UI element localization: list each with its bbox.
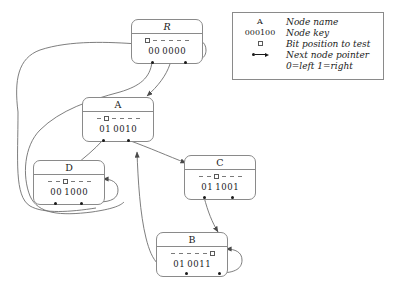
node-D-left-pointer-dot[interactable] — [54, 202, 57, 205]
bit-dash — [237, 174, 243, 180]
key-digit: 1 — [233, 182, 239, 192]
node-B-bitmarks — [161, 249, 223, 258]
node-C-name: C — [185, 156, 255, 170]
key-digit: 0 — [131, 124, 137, 134]
bit-dash — [170, 251, 176, 257]
bit-dash — [176, 38, 182, 44]
legend-text-pointer: Next node pointer — [283, 50, 369, 60]
node-A-right-pointer-dot[interactable] — [127, 139, 130, 142]
key-digit: 0 — [154, 46, 160, 56]
node-B[interactable]: B 0 1 0 0 1 1 — [156, 232, 228, 277]
key-digit: 1 — [207, 182, 213, 192]
node-A-body: 0 1 0 0 1 0 — [83, 112, 153, 137]
bit-dash — [184, 38, 190, 44]
node-D[interactable]: D 0 0 1 0 0 0 — [33, 160, 105, 205]
node-D-name: D — [34, 161, 104, 175]
bit-dash — [127, 116, 133, 122]
legend-symbol-bit-position — [237, 41, 283, 46]
node-B-body: 0 1 0 0 1 1 — [157, 247, 227, 272]
node-C-left-pointer-dot[interactable] — [203, 196, 206, 199]
bit-dash — [160, 38, 166, 44]
node-C-bitmarks — [189, 172, 251, 181]
bit-position-marker — [210, 251, 215, 256]
bit-dash — [86, 179, 92, 185]
key-digit: 1 — [179, 259, 185, 269]
node-C-key: 0 1 1 0 0 1 — [189, 181, 251, 192]
legend-row-node-key: 000100 Node key — [237, 27, 378, 38]
node-R-left-pointer-dot[interactable] — [151, 61, 154, 64]
figure-canvas: R 0 0 0 0 0 0 A — [0, 0, 394, 296]
legend-text-node-name: Node name — [283, 17, 338, 27]
bit-position-marker — [214, 174, 219, 179]
bit-dash — [194, 251, 200, 257]
node-B-left-pointer-dot[interactable] — [185, 272, 188, 275]
legend-text-node-key: Node key — [283, 28, 329, 38]
node-R-key: 0 0 0 0 0 0 — [136, 45, 198, 56]
bit-position-marker — [63, 179, 68, 184]
pointer-line-icon — [255, 54, 265, 55]
node-B-right-pointer-dot[interactable] — [218, 272, 221, 275]
bit-dash — [111, 116, 117, 122]
key-digit: 0 — [82, 187, 88, 197]
node-R[interactable]: R 0 0 0 0 0 0 — [131, 19, 203, 64]
bit-dash — [96, 116, 102, 122]
node-A-left-pointer-dot[interactable] — [102, 139, 105, 142]
legend-row-pointer: Next node pointer — [237, 49, 378, 60]
node-A-name: A — [83, 98, 153, 112]
node-A[interactable]: A 0 1 0 0 1 0 — [82, 97, 154, 142]
bit-dash — [206, 174, 212, 180]
node-B-key: 0 1 0 0 1 1 — [161, 258, 223, 269]
bit-dash — [119, 116, 125, 122]
node-B-name: B — [157, 233, 227, 247]
bit-dash — [152, 38, 158, 44]
key-digit: 1 — [205, 259, 211, 269]
edge-A-1-to-C — [128, 140, 186, 163]
node-R-bitmarks — [136, 36, 198, 45]
pointer-arrowhead-icon — [265, 53, 269, 57]
legend-row-branch-convention: 0=left 1=right — [237, 60, 378, 71]
key-digit: 1 — [105, 124, 111, 134]
node-C-right-pointer-dot[interactable] — [231, 196, 234, 199]
node-A-key: 0 1 0 0 1 0 — [87, 123, 149, 134]
legend-symbol-node-key: 000100 — [237, 28, 283, 37]
node-R-body: 0 0 0 0 0 0 — [132, 34, 202, 59]
bit-dash — [78, 179, 84, 185]
bit-dash — [168, 38, 174, 44]
bit-position-marker — [145, 38, 150, 43]
bit-dash — [135, 116, 141, 122]
bit-dash — [186, 251, 192, 257]
legend-text-branch-convention: 0=left 1=right — [283, 61, 353, 71]
legend-row-bit-position: Bit position to test — [237, 38, 378, 49]
edge-C-0-to-B — [204, 197, 218, 232]
node-D-right-pointer-dot[interactable] — [80, 202, 83, 205]
bit-dash — [55, 179, 61, 185]
bit-dash — [47, 179, 53, 185]
legend-text-bit-position: Bit position to test — [283, 39, 370, 49]
node-D-body: 0 0 1 0 0 0 — [34, 175, 104, 200]
node-R-right-pointer-dot[interactable] — [184, 61, 187, 64]
legend-row-node-name: A Node name — [237, 16, 378, 27]
next-node-pointer-icon — [252, 53, 269, 57]
bit-dash — [221, 174, 227, 180]
legend-box: A Node name 000100 Node key Bit position… — [232, 12, 384, 80]
bit-dash — [229, 174, 235, 180]
bit-dash — [178, 251, 184, 257]
node-R-name: R — [132, 20, 202, 34]
key-digit: 0 — [180, 46, 186, 56]
legend-symbol-node-name: A — [237, 17, 283, 26]
node-D-key: 0 0 1 0 0 0 — [38, 186, 100, 197]
legend-symbol-pointer — [237, 53, 283, 57]
node-C[interactable]: C 0 1 1 0 0 1 — [184, 155, 256, 200]
key-digit: 0 — [56, 187, 62, 197]
bit-dash — [198, 174, 204, 180]
node-C-body: 0 1 1 0 0 1 — [185, 170, 255, 195]
node-A-bitmarks — [87, 114, 149, 123]
bit-dash — [70, 179, 76, 185]
bit-position-marker-icon — [258, 41, 263, 46]
node-D-bitmarks — [38, 177, 100, 186]
bit-position-marker — [104, 116, 109, 121]
bit-dash — [202, 251, 208, 257]
